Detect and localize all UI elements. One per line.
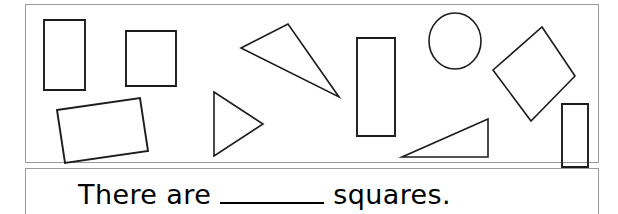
question-text-before: There are [78,181,211,208]
question-sentence: There are squares. [78,181,451,208]
answer-blank[interactable] [220,202,324,204]
question-text-after: squares. [333,181,451,208]
question-line: There are squares. [25,168,599,214]
worksheet: There are squares. [0,0,618,214]
shape-field-panel [25,4,599,163]
